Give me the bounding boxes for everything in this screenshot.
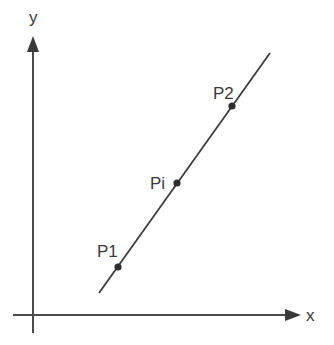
point-pi: Pi: [150, 174, 181, 193]
point-p2: P2: [213, 84, 236, 110]
point-p2-dot: [228, 102, 235, 109]
y-axis: y: [27, 8, 39, 333]
x-axis-label: x: [306, 306, 315, 325]
coordinate-diagram: y x P1 Pi P2: [0, 0, 334, 345]
x-axis: x: [13, 306, 315, 325]
point-p1: P1: [97, 242, 122, 271]
point-pi-label: Pi: [150, 174, 165, 193]
line-segment: [99, 53, 270, 293]
point-pi-dot: [173, 179, 180, 186]
point-p2-label: P2: [213, 84, 234, 103]
y-axis-arrow-icon: [27, 36, 39, 52]
point-p1-dot: [114, 263, 121, 270]
point-p1-label: P1: [97, 242, 118, 261]
x-axis-arrow-icon: [285, 309, 301, 321]
y-axis-label: y: [29, 8, 38, 27]
